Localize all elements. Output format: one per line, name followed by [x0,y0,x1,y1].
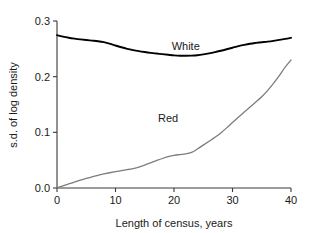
y-axis-title: s.d. of log density [7,62,19,148]
x-tick-label: 10 [109,194,121,206]
y-tick-label: 0.3 [35,15,50,27]
x-tick-label: 20 [168,194,180,206]
x-tick-label: 30 [226,194,238,206]
y-tick-label: 0.1 [35,126,50,138]
line-chart: 0.00.10.20.3 010203040 White Red Length … [0,0,311,233]
y-axis-ticks: 0.00.10.20.3 [35,15,57,194]
series-label-white: White [172,40,200,52]
x-axis-title: Length of census, years [116,217,233,229]
x-tick-label: 0 [54,194,60,206]
x-axis-ticks: 010203040 [54,188,297,206]
y-tick-label: 0.0 [35,182,50,194]
x-tick-label: 40 [285,194,297,206]
chart-container: 0.00.10.20.3 010203040 White Red Length … [0,0,311,233]
series-label-red: Red [158,112,178,124]
y-tick-label: 0.2 [35,71,50,83]
